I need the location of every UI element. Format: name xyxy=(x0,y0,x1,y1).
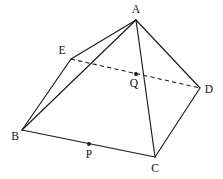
edge-AC xyxy=(136,20,155,157)
point-Q-dot xyxy=(134,72,138,76)
edge-AB xyxy=(22,20,136,130)
edge-AD xyxy=(136,20,200,88)
edge-CD xyxy=(155,88,200,157)
label-A: A xyxy=(132,3,141,15)
edge-AE xyxy=(71,20,136,59)
geometry-diagram: A E D B C P Q xyxy=(0,0,223,179)
label-D: D xyxy=(205,83,213,95)
edge-BE xyxy=(22,59,71,130)
label-E: E xyxy=(58,44,65,56)
point-P-dot xyxy=(87,142,91,146)
label-B: B xyxy=(11,130,19,142)
label-Q: Q xyxy=(130,77,139,89)
label-P: P xyxy=(86,148,92,160)
pyramid-figure: A E D B C P Q xyxy=(0,0,223,179)
label-C: C xyxy=(151,162,159,174)
